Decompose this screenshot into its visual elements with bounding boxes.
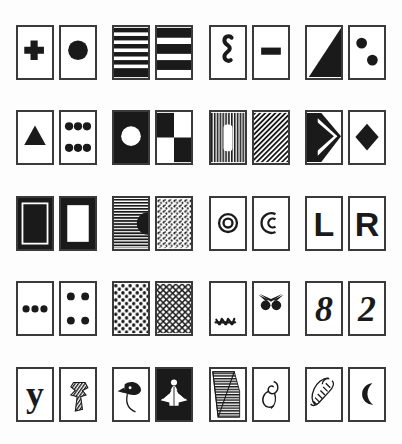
spiral-shell-card[interactable] bbox=[305, 367, 343, 422]
thin-horizontal-bands-card[interactable] bbox=[112, 25, 150, 80]
solid-diamond-card[interactable] bbox=[348, 110, 386, 165]
checkerboard-quadrants-card[interactable] bbox=[155, 110, 193, 165]
solid-triangle-card[interactable] bbox=[16, 110, 54, 165]
eyes-with-brows-card[interactable] bbox=[252, 281, 290, 336]
card-row-1 bbox=[8, 12, 394, 92]
four-corner-dots-card[interactable] bbox=[59, 281, 97, 336]
s-squiggle-card[interactable] bbox=[209, 25, 247, 80]
filled-circle-card[interactable] bbox=[59, 25, 97, 80]
black-frame-hollow-card[interactable] bbox=[59, 196, 97, 251]
letter-r-card[interactable]: R bbox=[348, 196, 386, 251]
lashes-card[interactable] bbox=[209, 281, 247, 336]
black-frame-filled-card[interactable] bbox=[16, 196, 54, 251]
pattern-card-sheet: L R bbox=[0, 0, 402, 444]
white-moth-on-black-card[interactable] bbox=[155, 367, 193, 422]
card-pair-arrow-and-diamond[interactable] bbox=[305, 110, 386, 165]
three-dots-row-card[interactable] bbox=[16, 281, 54, 336]
card-pair-triangle-and-two-dots[interactable] bbox=[305, 25, 386, 80]
striped-cross-glyph-card[interactable] bbox=[59, 367, 97, 422]
card-pair-lashes-and-eyes[interactable] bbox=[209, 281, 290, 336]
letter-y-glyph: y bbox=[26, 373, 44, 413]
card-pair-shell-and-moon[interactable] bbox=[305, 367, 386, 422]
numeral-eight-glyph: 8 bbox=[315, 289, 333, 329]
card-pair-vertical-stripes-and-hatch[interactable] bbox=[209, 110, 290, 165]
six-dots-card[interactable] bbox=[59, 110, 97, 165]
card-row-3: L R bbox=[8, 183, 394, 263]
horizontal-bar-card[interactable] bbox=[252, 25, 290, 80]
numeral-eight-card[interactable]: 8 bbox=[305, 281, 343, 336]
plus-cross-card[interactable] bbox=[16, 25, 54, 80]
thick-horizontal-bands-card[interactable] bbox=[155, 25, 193, 80]
card-pair-wedge-and-sprout[interactable] bbox=[209, 367, 290, 422]
crescent-moon-card[interactable] bbox=[348, 367, 386, 422]
card-pair-ring-and-crescent[interactable] bbox=[209, 196, 290, 251]
card-row-5: y bbox=[8, 354, 394, 434]
card-pair-cross-and-disc[interactable] bbox=[16, 25, 97, 80]
vertical-stripes-window-card[interactable] bbox=[209, 110, 247, 165]
letter-r-glyph: R bbox=[355, 204, 380, 242]
numeral-two-glyph: 2 bbox=[357, 289, 376, 329]
chevron-arrow-card[interactable] bbox=[305, 110, 343, 165]
card-row-2 bbox=[8, 98, 394, 178]
card-pair-triangle-and-six-dots[interactable] bbox=[16, 110, 97, 165]
card-pair-letter-y-and-striped-glyph[interactable]: y bbox=[16, 367, 97, 422]
card-pair-bird-and-moth[interactable] bbox=[112, 367, 193, 422]
speckle-texture-card[interactable] bbox=[155, 196, 193, 251]
card-pair-inverted-disc-and-checker[interactable] bbox=[112, 110, 193, 165]
horizontal-lines-halfdisc-card[interactable] bbox=[112, 196, 150, 251]
striped-wedge-card[interactable] bbox=[209, 367, 247, 422]
letter-l-card[interactable]: L bbox=[305, 196, 343, 251]
two-dots-card[interactable] bbox=[348, 25, 386, 80]
card-pair-stripes-and-speckle[interactable] bbox=[112, 196, 193, 251]
letter-y-card[interactable]: y bbox=[16, 367, 54, 422]
crescent-outline-card[interactable] bbox=[252, 196, 290, 251]
card-pair-frames[interactable] bbox=[16, 196, 97, 251]
numeral-two-card[interactable]: 2 bbox=[348, 281, 386, 336]
letter-l-glyph: L bbox=[314, 204, 335, 242]
sprout-outline-card[interactable] bbox=[252, 367, 290, 422]
white-disc-on-black-card[interactable] bbox=[112, 110, 150, 165]
card-pair-horizontal-band-pairs[interactable] bbox=[112, 25, 193, 80]
polka-dot-card[interactable] bbox=[112, 281, 150, 336]
diagonal-hatch-card[interactable] bbox=[252, 110, 290, 165]
card-pair-letters-l-and-r[interactable]: L R bbox=[305, 196, 386, 251]
card-pair-three-dots-and-four-dots[interactable] bbox=[16, 281, 97, 336]
diagonal-triangle-card[interactable] bbox=[305, 25, 343, 80]
card-pair-polka-and-lattice[interactable] bbox=[112, 281, 193, 336]
card-row-4: 8 2 bbox=[8, 269, 394, 349]
concentric-ring-card[interactable] bbox=[209, 196, 247, 251]
card-pair-squiggle-and-bar[interactable] bbox=[209, 25, 290, 80]
lattice-mesh-card[interactable] bbox=[155, 281, 193, 336]
bird-head-card[interactable] bbox=[112, 367, 150, 422]
card-pair-numerals-eight-and-two[interactable]: 8 2 bbox=[305, 281, 386, 336]
